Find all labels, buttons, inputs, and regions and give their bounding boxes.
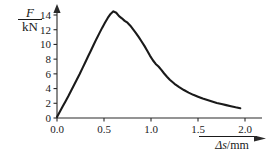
x-tick-label: 2.0 bbox=[238, 123, 252, 135]
y-axis-label-denominator: kN bbox=[13, 20, 47, 33]
y-axis-arrowhead bbox=[53, 4, 60, 13]
y-tick-label: 10 bbox=[40, 38, 52, 50]
x-tick-label: 1.5 bbox=[191, 123, 205, 135]
y-axis-label: F kN bbox=[13, 6, 47, 33]
force-displacement-chart: 02468101214 0.00.51.01.52.0 F kN Δs/mm bbox=[0, 0, 271, 158]
x-tick-label: 0.0 bbox=[50, 123, 64, 135]
x-axis-label-symbol: Δs bbox=[215, 138, 227, 152]
x-tick-label: 0.5 bbox=[97, 123, 111, 135]
y-tick-label: 2 bbox=[46, 97, 52, 109]
x-tick-label: 1.0 bbox=[144, 123, 158, 135]
y-tick-label: 8 bbox=[46, 53, 52, 65]
axes-group bbox=[53, 4, 262, 118]
x-axis-arrow-svg bbox=[246, 136, 268, 148]
y-tick-label: 0 bbox=[46, 112, 52, 124]
y-tick-label: 4 bbox=[46, 82, 52, 94]
x-axis-ticks: 0.00.51.01.52.0 bbox=[50, 118, 252, 135]
x-axis-arrowhead bbox=[254, 136, 266, 142]
y-tick-label: 6 bbox=[46, 68, 52, 80]
force-displacement-curve bbox=[57, 11, 240, 117]
y-axis-label-numerator: F bbox=[13, 6, 47, 19]
